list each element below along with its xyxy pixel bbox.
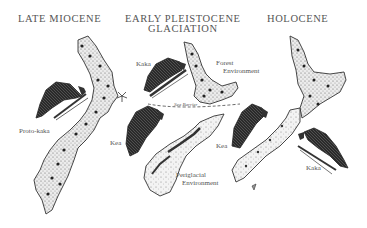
fern-icon	[117, 92, 127, 102]
label-proto-kaka: Proto-kaka	[19, 127, 50, 135]
heading-holocene: HOLOCENE	[267, 14, 328, 24]
heading-late-miocene: LATE MIOCENE	[18, 14, 101, 24]
label-periglacial-line2: Environment	[176, 179, 219, 187]
heading-early-pleistocene: EARLY PLEISTOCENE GLACIATION	[125, 14, 241, 34]
label-forest-environment: Forest Environment	[216, 59, 260, 75]
proto-kaka-bird-icon	[36, 82, 88, 120]
miocene-landmass	[34, 36, 118, 214]
holocene-north-island	[290, 36, 346, 118]
label-kea-mid: Kea	[110, 139, 121, 147]
kea-bird-icon	[232, 104, 268, 148]
label-kea-right: Kea	[216, 142, 227, 150]
kea-bird-icon	[126, 106, 164, 156]
label-forest-line2: Environment	[216, 67, 260, 75]
label-periglacial-line1: Periglacial	[176, 171, 219, 179]
label-kaka-right: Kaka	[306, 164, 321, 172]
label-sea-barrier: Sea Barrier	[174, 101, 197, 109]
heading-early-pleistocene-line2: GLACIATION	[125, 24, 241, 34]
label-forest-line1: Forest	[216, 59, 260, 67]
label-periglacial-environment: Periglacial Environment	[176, 171, 219, 187]
illustration	[0, 0, 367, 228]
label-kaka-mid: Kaka	[136, 60, 151, 68]
